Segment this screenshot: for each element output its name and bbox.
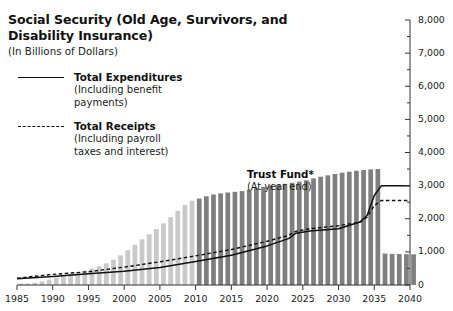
bar-2038 <box>397 254 402 285</box>
bar-2016 <box>240 191 245 285</box>
annotation-label: Trust Fund* <box>247 168 339 181</box>
bar-2014 <box>225 193 230 285</box>
bar-2002 <box>140 239 145 285</box>
bar-2040 <box>411 254 416 285</box>
chart-figure: Social Security (Old Age, Survivors, and… <box>0 0 453 311</box>
chart-canvas <box>0 0 453 311</box>
bar-2037 <box>390 254 395 285</box>
bar-1996 <box>97 266 102 285</box>
bar-2032 <box>354 171 359 285</box>
bar-2005 <box>161 223 166 285</box>
annotation-sublabel: (At year end) <box>247 181 339 194</box>
bar-2019 <box>261 187 266 285</box>
y-tick-label-0: 0 <box>418 279 424 290</box>
bar-2013 <box>218 193 223 285</box>
bar-2000 <box>125 250 130 285</box>
bar-2031 <box>347 172 352 285</box>
trust-fund-annotation: Trust Fund* (At year end) <box>247 168 339 193</box>
plot-area: 01,0002,0003,0004,0005,0006,0007,0008,00… <box>0 0 453 311</box>
bar-2036 <box>383 254 388 285</box>
y-tick-label-2000: 2,000 <box>418 212 445 223</box>
bar-2039 <box>404 254 409 285</box>
bar-2003 <box>147 234 152 285</box>
bar-2015 <box>233 192 238 285</box>
bar-2007 <box>175 211 180 285</box>
bar-1988 <box>40 281 45 285</box>
bar-2010 <box>197 199 202 285</box>
bar-2035 <box>375 169 380 285</box>
bar-1999 <box>118 255 123 285</box>
bar-2004 <box>154 229 159 285</box>
bar-2033 <box>361 170 366 285</box>
bar-1991 <box>61 276 66 285</box>
bar-1997 <box>104 263 109 285</box>
bar-1990 <box>54 278 59 285</box>
y-tick-label-5000: 5,000 <box>418 113 445 124</box>
bar-2020 <box>268 186 273 285</box>
bars-group <box>18 169 416 285</box>
bar-2022 <box>283 184 288 285</box>
x-tick-label-2040: 2040 <box>388 293 432 304</box>
bar-2017 <box>247 190 252 285</box>
bar-2009 <box>190 201 195 285</box>
bar-2011 <box>204 196 209 285</box>
bar-1989 <box>47 280 52 285</box>
y-tick-label-4000: 4,000 <box>418 146 445 157</box>
bar-2034 <box>368 169 373 285</box>
bar-2012 <box>211 195 216 286</box>
y-tick-label-7000: 7,000 <box>418 47 445 58</box>
y-tick-label-8000: 8,000 <box>418 14 445 25</box>
bar-2006 <box>168 217 173 285</box>
y-tick-label-3000: 3,000 <box>418 179 445 190</box>
y-tick-label-1000: 1,000 <box>418 245 445 256</box>
bar-2008 <box>183 205 188 285</box>
bar-2018 <box>254 188 259 285</box>
bar-2025 <box>304 180 309 285</box>
bar-2026 <box>311 178 316 285</box>
bar-2021 <box>275 185 280 285</box>
y-tick-label-6000: 6,000 <box>418 80 445 91</box>
